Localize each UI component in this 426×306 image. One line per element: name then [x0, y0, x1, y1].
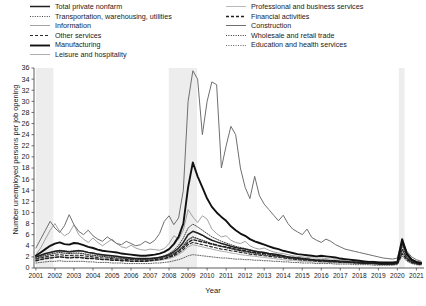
- x-tick-label: 2007: [143, 272, 158, 279]
- chart-page: Total private nonfarmTransportation, war…: [0, 0, 426, 306]
- x-tick-label: 2001: [29, 272, 44, 279]
- legend-column-right: Professional and business servicesFinanc…: [226, 2, 422, 60]
- legend-item-label: Construction: [251, 21, 291, 31]
- legend-column-left: Total private nonfarmTransportation, war…: [30, 2, 226, 60]
- y-tick-label: 10: [22, 208, 30, 217]
- x-tick-label: 2013: [257, 272, 272, 279]
- legend-line-swatch-icon: [30, 13, 50, 20]
- chart-legend: Total private nonfarmTransportation, war…: [30, 2, 422, 60]
- x-tick-label: 2014: [276, 272, 291, 279]
- x-tick-label: 2006: [124, 272, 139, 279]
- legend-line-swatch-icon: [226, 13, 246, 20]
- legend-item-label: Financial activities: [251, 12, 309, 22]
- legend-item-label: Professional and business services: [251, 2, 363, 12]
- legend-line-swatch-icon: [30, 22, 50, 29]
- x-tick-label: 2003: [67, 272, 82, 279]
- legend-item-label: Wholesale and retail trade: [251, 31, 335, 41]
- x-tick-label: 2019: [371, 272, 386, 279]
- legend-line-swatch-icon: [226, 42, 246, 49]
- x-tick-label: 2015: [295, 272, 310, 279]
- series-line: [36, 237, 421, 264]
- y-tick-label: 32: [22, 86, 30, 95]
- x-tick-label: 2004: [86, 272, 101, 279]
- x-tick-label: 2002: [48, 272, 63, 279]
- y-tick-label: 8: [26, 219, 30, 228]
- legend-line-swatch-icon: [30, 51, 50, 58]
- legend-item-label: Transportation, warehousing, utilities: [55, 12, 172, 22]
- legend-line-swatch-icon: [226, 32, 246, 39]
- legend-item[interactable]: Construction: [226, 21, 422, 31]
- y-tick-label: 22: [22, 141, 30, 150]
- x-tick-label: 2005: [105, 272, 120, 279]
- x-tick-label: 2021: [409, 272, 424, 279]
- y-tick-label: 18: [22, 163, 30, 172]
- legend-item-label: Education and health services: [251, 40, 347, 50]
- legend-line-swatch-icon: [30, 32, 50, 39]
- y-tick-label: 28: [22, 108, 30, 117]
- y-tick-label: 12: [22, 197, 30, 206]
- legend-item[interactable]: Total private nonfarm: [30, 2, 226, 12]
- legend-line-swatch-icon: [226, 22, 246, 29]
- y-tick-label: 4: [26, 241, 30, 250]
- x-tick-label: 2010: [200, 272, 215, 279]
- x-tick-label: 2008: [162, 272, 177, 279]
- legend-line-swatch-icon: [30, 3, 50, 10]
- series-line: [36, 71, 421, 262]
- legend-item-label: Other services: [55, 31, 101, 41]
- legend-line-swatch-icon: [226, 3, 246, 10]
- legend-item[interactable]: Wholesale and retail trade: [226, 31, 422, 41]
- y-tick-label: 36: [22, 63, 30, 72]
- legend-item[interactable]: Transportation, warehousing, utilities: [30, 12, 226, 22]
- x-tick-label: 2016: [314, 272, 329, 279]
- x-tick-label: 2017: [333, 272, 348, 279]
- y-tick-label: 6: [26, 230, 30, 239]
- y-tick-label: 24: [22, 130, 30, 139]
- plot-area-wrapper: Number unemployed persons per job openin…: [0, 60, 426, 306]
- legend-item[interactable]: Information: [30, 21, 226, 31]
- legend-item-label: Total private nonfarm: [55, 2, 122, 12]
- x-tick-label: 2012: [238, 272, 253, 279]
- recession-shading-recession-2001: [36, 68, 54, 268]
- x-tick-label: 2011: [219, 272, 234, 279]
- y-tick-label: 14: [22, 186, 30, 195]
- legend-item[interactable]: Other services: [30, 31, 226, 41]
- legend-item-label: Manufacturing: [55, 40, 101, 50]
- line-chart-svg: 0246810121416182022242628303234362001200…: [0, 60, 426, 306]
- y-tick-label: 30: [22, 97, 30, 106]
- legend-item[interactable]: Education and health services: [226, 40, 422, 50]
- y-tick-label: 20: [22, 152, 30, 161]
- legend-item-label: Leisure and hospitality: [55, 50, 127, 60]
- x-tick-label: 2018: [352, 272, 367, 279]
- legend-item[interactable]: Leisure and hospitality: [30, 50, 226, 60]
- legend-line-swatch-icon: [30, 42, 50, 49]
- y-tick-label: 2: [26, 252, 30, 261]
- recession-shading-recession-2020: [399, 68, 405, 268]
- legend-item[interactable]: Financial activities: [226, 12, 422, 22]
- x-tick-label: 2020: [390, 272, 405, 279]
- x-tick-label: 2009: [181, 272, 196, 279]
- y-tick-label: 26: [22, 119, 30, 128]
- legend-item[interactable]: Professional and business services: [226, 2, 422, 12]
- y-tick-label: 16: [22, 175, 30, 184]
- legend-item-label: Information: [55, 21, 91, 31]
- y-tick-label: 34: [22, 75, 30, 84]
- legend-item[interactable]: Manufacturing: [30, 40, 226, 50]
